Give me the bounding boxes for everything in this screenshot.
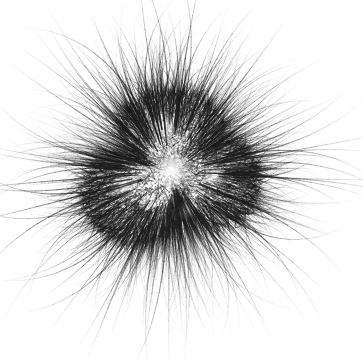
specimen-figure	[0, 0, 363, 361]
specimen-overlay	[0, 0, 363, 361]
